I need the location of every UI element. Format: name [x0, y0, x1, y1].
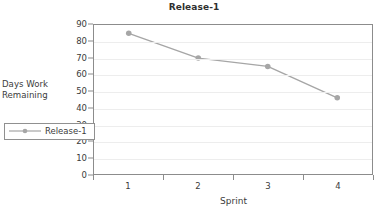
y-tick-label-50: 50 — [76, 87, 87, 96]
chart-title: Release-1 — [0, 2, 388, 12]
data-point-1[interactable] — [126, 31, 132, 37]
x-axis-title: Sprint — [93, 196, 374, 206]
y-tick-label-60: 60 — [76, 70, 87, 79]
plot-area — [93, 24, 373, 175]
y-tick-label-0: 0 — [82, 171, 87, 180]
y-tick-label-40: 40 — [76, 104, 87, 113]
gridline-20 — [94, 142, 372, 143]
y-axis: 9080706050403020100 — [60, 24, 93, 175]
x-tick-mark-0 — [93, 175, 94, 180]
y-tick-label-80: 80 — [76, 37, 87, 46]
series-path-Release-1 — [129, 33, 338, 98]
x-tick-mark-4 — [373, 175, 374, 180]
y-axis-title: Days Work Remaining — [2, 79, 60, 101]
x-tick-label-4: 4 — [335, 182, 340, 191]
x-tick-mark-1 — [163, 175, 164, 180]
x-tick-mark-3 — [303, 175, 304, 180]
gridline-80 — [94, 42, 372, 43]
gridline-70 — [94, 59, 372, 60]
data-point-4[interactable] — [334, 95, 340, 101]
series-line-release-1 — [94, 25, 372, 174]
y-tick-label-90: 90 — [76, 20, 87, 29]
legend-label-release-1: Release-1 — [45, 127, 87, 136]
gridline-30 — [94, 126, 372, 127]
gridline-60 — [94, 75, 372, 76]
gridline-10 — [94, 159, 372, 160]
y-tick-label-70: 70 — [76, 53, 87, 62]
x-tick-label-2: 2 — [195, 182, 200, 191]
x-tick-mark-2 — [233, 175, 234, 180]
gridline-40 — [94, 109, 372, 110]
legend-line-marker-icon — [9, 127, 41, 135]
chart-legend: Release-1 — [4, 123, 95, 140]
x-tick-label-3: 3 — [265, 182, 270, 191]
x-tick-label-1: 1 — [125, 182, 130, 191]
gridline-50 — [94, 92, 372, 93]
y-axis-title-line-1: Days Work — [2, 79, 60, 90]
y-tick-label-10: 10 — [76, 154, 87, 163]
y-axis-title-line-2: Remaining — [2, 90, 60, 101]
data-point-3[interactable] — [265, 64, 271, 70]
